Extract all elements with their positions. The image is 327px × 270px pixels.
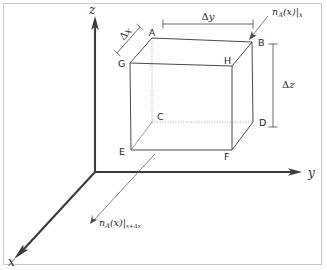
flux-inlet-leader-line bbox=[252, 16, 268, 36]
coordinate-diagram: z y x A B C bbox=[0, 0, 327, 270]
vertex-label-D: D bbox=[259, 117, 266, 128]
cube-hidden-edge-CE bbox=[131, 122, 152, 150]
z-axis-label: z bbox=[88, 3, 96, 17]
delta-x-label: Δx bbox=[117, 25, 134, 42]
dimension-delta-z: Δz bbox=[269, 44, 296, 127]
flux-outlet-group: nA(x)|x+Δx bbox=[90, 154, 155, 230]
vertex-label-C: C bbox=[157, 111, 164, 122]
delta-y-label: Δy bbox=[202, 11, 215, 22]
cube-edge-AB bbox=[152, 38, 252, 42]
cube-edge-DF bbox=[232, 122, 253, 150]
flux-inlet-group: nA(x)|x bbox=[249, 6, 303, 40]
flux-outlet-label: nA(x)|x+Δx bbox=[99, 217, 142, 230]
vertex-label-E: E bbox=[119, 146, 125, 157]
cube-group bbox=[130, 38, 253, 150]
vertex-label-G: G bbox=[118, 58, 125, 69]
vertex-label-A: A bbox=[149, 27, 156, 38]
cube-edge-BH bbox=[232, 42, 252, 66]
flux-outlet-leader-line bbox=[94, 154, 155, 220]
axis-group: z y x bbox=[8, 3, 315, 269]
cube-edge-EG bbox=[130, 63, 131, 150]
dimension-delta-x: Δx bbox=[114, 24, 144, 56]
vertex-label-F: F bbox=[224, 151, 229, 162]
vertex-label-group: A B C D E F G H bbox=[118, 27, 266, 162]
x-axis-line bbox=[23, 172, 95, 250]
delta-z-label: Δz bbox=[282, 79, 295, 90]
dimension-delta-y: Δy bbox=[163, 11, 253, 29]
vertex-label-H: H bbox=[224, 55, 231, 66]
cube-edge-GH bbox=[130, 63, 232, 66]
vertex-label-B: B bbox=[258, 37, 265, 48]
figure-root: z y x A B C bbox=[0, 0, 327, 270]
cube-edge-BD bbox=[252, 42, 253, 122]
flux-outlet-arrowhead bbox=[90, 214, 98, 224]
y-axis-label: y bbox=[307, 166, 315, 180]
cube-edge-AG bbox=[130, 38, 152, 63]
flux-inlet-label: nA(x)|x bbox=[272, 6, 303, 19]
x-axis-label: x bbox=[8, 255, 15, 269]
